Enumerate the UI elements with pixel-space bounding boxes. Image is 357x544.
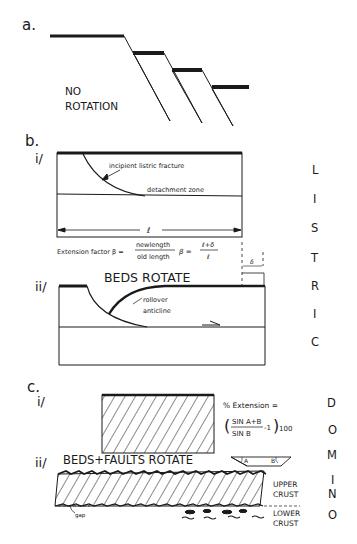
domino-letter: I — [331, 473, 334, 487]
no-rotation-faults — [50, 36, 249, 126]
formula-numerator: SIN A+B — [232, 418, 262, 426]
beds-faults-rotate-title: BEDS+FAULTS ROTATE — [63, 453, 193, 467]
fraction-l-plus-delta: ℓ+δ — [201, 241, 214, 249]
rollover-label-2: anticline — [143, 307, 171, 315]
delta-symbol: δ — [250, 258, 254, 265]
formula-denominator: SIN B — [232, 430, 251, 438]
rollover-label-1: rollover — [143, 296, 168, 304]
domino-letter: N — [328, 487, 337, 501]
lower-crust-ductile-marks — [182, 509, 264, 519]
domino-side-label: D O M I N O — [327, 396, 337, 522]
upper-crust-label-2: CRUST — [273, 490, 299, 499]
beta-symbol: β = — [179, 248, 192, 256]
listric-letter: T — [310, 251, 319, 265]
formula-multiplier: 100 — [279, 425, 292, 433]
paren-open: ( — [224, 416, 230, 435]
panel-b: b. i/ incipient listric fracture detachm… — [25, 132, 319, 365]
panel-a: a. NO ROTATION — [22, 16, 249, 126]
panel-b-i-label: i/ — [35, 151, 44, 166]
fracture-label: incipient listric fracture — [109, 162, 184, 170]
angle-triangle — [231, 457, 291, 466]
domino-letter: M — [327, 448, 337, 462]
detachment-label: detachment zone — [147, 186, 204, 194]
panel-a-label: a. — [22, 16, 36, 34]
panel-c-i-label: i/ — [37, 394, 46, 409]
extension-diagram: a. NO ROTATION b. i/ — [0, 0, 357, 544]
panel-b-ii-label: ii/ — [35, 279, 47, 294]
panel-b-label: b. — [25, 132, 39, 150]
formula-minus-one: -1 — [264, 424, 271, 432]
angle-b-label: B — [271, 457, 275, 464]
fraction-oldlength: old length — [137, 253, 170, 261]
gap-label: gap — [75, 512, 86, 519]
fraction-l: ℓ — [206, 253, 210, 261]
domino-letter: D — [327, 396, 336, 410]
domino-blocks-ii — [55, 471, 300, 506]
listric-letter: L — [312, 163, 319, 177]
listric-letter: R — [311, 279, 319, 293]
listric-letter: I — [313, 307, 316, 321]
domino-letter: O — [328, 423, 337, 437]
domino-letter: O — [328, 508, 337, 522]
no-rotation-caption-1: NO — [65, 85, 81, 97]
listric-side-label: L I S T R I C — [310, 163, 319, 349]
length-symbol: ℓ — [146, 226, 150, 235]
extension-factor-label: Extension factor β = — [57, 248, 124, 256]
percent-extension-title: % Extension = — [223, 401, 278, 410]
upper-crust-label-1: UPPER — [273, 480, 298, 489]
beds-rotate-title: BEDS ROTATE — [104, 270, 190, 285]
panel-c: c. i/ % Extension = ( SIN A+B SIN B -1 )… — [27, 378, 337, 528]
listric-letter: S — [311, 221, 318, 235]
panel-c-ii-label: ii/ — [35, 455, 47, 470]
listric-letter: C — [311, 335, 319, 349]
no-rotation-caption-2: ROTATION — [65, 100, 118, 112]
fraction-newlength: newlength — [136, 241, 170, 249]
angle-a-label: A — [244, 457, 249, 464]
lower-crust-label-1: LOWER — [273, 509, 300, 518]
domino-block-i — [102, 395, 214, 453]
lower-crust-label-2: CRUST — [273, 519, 299, 528]
listric-letter: I — [313, 192, 316, 206]
